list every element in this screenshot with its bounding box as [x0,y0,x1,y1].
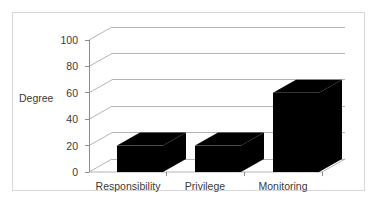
y-axis-title: Degree [19,93,53,104]
y-tick-label-60: 60 [52,88,78,99]
x-tick-label-privilege: Privilege [185,181,225,192]
chart-container: 100 80 60 40 20 0 Degree Responsibility … [0,0,379,206]
x-tick-label-responsibility: Responsibility [96,181,161,192]
y-tick-label-80: 80 [52,61,78,72]
y-tick-label-0: 0 [52,167,78,178]
y-tick-label-20: 20 [52,140,78,151]
x-tick-label-monitoring: Monitoring [258,181,307,192]
y-tick-label-100: 100 [52,35,78,46]
y-tick-label-40: 40 [52,114,78,125]
